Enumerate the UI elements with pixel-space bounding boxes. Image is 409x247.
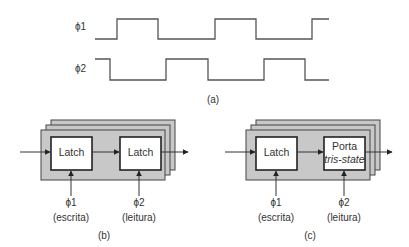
latch-label: Latch — [264, 146, 290, 158]
escrita-label: (escrita) — [53, 212, 89, 223]
phi1-clock-label: ϕ1 — [270, 197, 282, 208]
phi1-waveform — [95, 19, 329, 39]
phi2-waveform — [95, 59, 329, 80]
phi2-clock-label: ϕ2 — [338, 197, 350, 208]
phi2-clock-label: ϕ2 — [133, 197, 145, 208]
phi1-clock-label: ϕ1 — [65, 197, 77, 208]
panel-a-caption: (a) — [207, 94, 219, 105]
tris-state-label: tris-state — [324, 153, 364, 165]
latch-2-label: Latch — [128, 146, 154, 158]
phi1-label: ϕ1 — [75, 21, 87, 32]
panel-c-caption: (c) — [304, 230, 316, 241]
escrita-label: (escrita) — [258, 212, 294, 223]
panel-b-latch-latch: Latch Latch ϕ1 (escrita) ϕ2 (leitura) (b… — [20, 120, 188, 241]
porta-label: Porta — [332, 140, 357, 152]
panel-c-latch-tristate: Latch Porta tris-state ϕ1 (escrita) ϕ2 (… — [225, 120, 392, 241]
panel-b-caption: (b) — [98, 230, 110, 241]
latch-1-label: Latch — [59, 146, 85, 158]
phi2-label: ϕ2 — [75, 63, 87, 74]
diagram-canvas: ϕ1 ϕ2 (a) Latch Latch ϕ1 (escrita) ϕ2 (l… — [0, 0, 409, 247]
leitura-label: (leitura) — [327, 212, 361, 223]
panel-a-timing-diagram: ϕ1 ϕ2 (a) — [75, 19, 329, 105]
leitura-label: (leitura) — [122, 212, 156, 223]
